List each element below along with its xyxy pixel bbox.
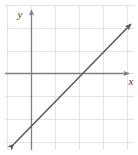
y-axis-label: y <box>17 8 23 20</box>
figure-background <box>0 0 138 155</box>
x-axis-label: x <box>128 75 134 87</box>
coordinate-plane-svg: y x <box>0 0 138 155</box>
graph-figure: y x <box>0 0 138 155</box>
